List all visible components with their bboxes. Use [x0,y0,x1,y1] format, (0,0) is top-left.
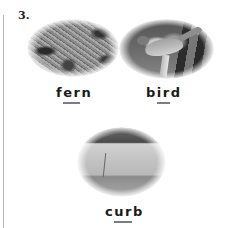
word-fern: fern [56,85,92,100]
word-fern-prefix: f [56,85,63,100]
fern-image [27,19,119,77]
word-bird-suffix: d [171,85,182,100]
word-bird: bird [146,85,182,100]
word-fern-underlined-vowel-r: er [63,85,81,100]
word-fern-suffix: n [81,85,92,100]
item-number: 3. [18,9,29,22]
word-bird-underlined-vowel-r: ir [157,85,171,100]
fern-picture [27,19,119,77]
word-curb-prefix: c [105,204,114,219]
bird-head-shape [137,36,149,45]
bird-picture [119,19,214,79]
word-curb-underlined-vowel-r: ur [114,204,133,219]
word-bird-prefix: b [146,85,157,100]
word-curb-suffix: b [133,204,144,219]
curb-image [77,127,166,197]
curb-picture [77,127,166,197]
word-curb: curb [105,204,144,219]
margin-rule [3,15,4,228]
